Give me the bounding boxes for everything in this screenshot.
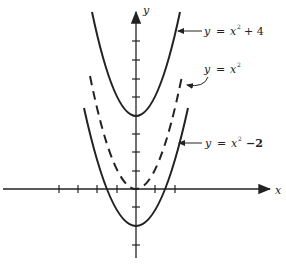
label-eq2-y: y <box>203 63 211 76</box>
label-eq1-x: x <box>230 25 237 38</box>
label-eq1-exp: 2 <box>237 23 241 30</box>
label-eq1-rest: + 4 <box>244 25 264 38</box>
arrow-eq2 <box>187 77 208 86</box>
y-axis-label: y <box>142 4 150 17</box>
label-eq2-exp: 2 <box>237 61 241 68</box>
parabola-plot: y x y = x 2 + 4 y = x 2 y = x 2 −2 <box>0 0 286 266</box>
label-eq3-x: x <box>231 137 238 150</box>
label-eq3-eq: = <box>217 137 226 150</box>
label-eq1-y: y <box>203 25 211 38</box>
label-eq2-eq: = <box>216 63 225 76</box>
label-eq3-y: y <box>204 137 212 150</box>
label-eq2-x: x <box>230 63 237 76</box>
label-eq1-eq: = <box>216 25 225 38</box>
label-eq3-rest: −2 <box>246 137 263 150</box>
x-axis-label: x <box>275 184 282 197</box>
label-eq3-exp: 2 <box>238 135 242 142</box>
